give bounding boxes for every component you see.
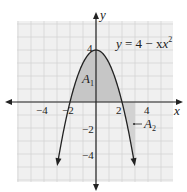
x-tick-minus2: −2 (62, 104, 74, 116)
x-tick-minus4: −4 (36, 104, 48, 116)
y-axis-label: y (98, 7, 106, 22)
x-tick-4: 4 (144, 104, 150, 116)
y-tick-minus4: −4 (82, 149, 94, 161)
y-axis-down-arrow-icon (93, 184, 99, 191)
x-tick-2: 2 (116, 104, 122, 116)
a2-pointer-dot (133, 123, 135, 125)
x-axis-label: x (173, 103, 180, 118)
y-tick-4: 4 (87, 42, 93, 54)
x-axis-left-arrow-icon (5, 99, 12, 105)
function-label: y = 4 − xx2 (114, 35, 172, 51)
y-axis-up-arrow-icon (93, 12, 99, 19)
y-tick-minus2: −2 (82, 123, 94, 135)
function-graph: x y −4 −2 2 4 4 −2 −4 y = 4 − xx2 A1 A2 (0, 0, 187, 192)
